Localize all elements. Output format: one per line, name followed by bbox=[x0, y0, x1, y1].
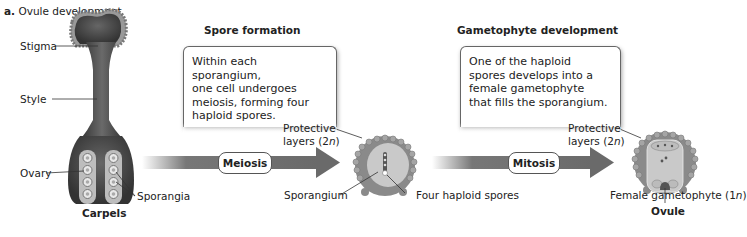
label-part: n bbox=[736, 189, 743, 201]
callout-line: Within each sporangium, bbox=[192, 55, 328, 82]
label-line: Protective bbox=[568, 122, 625, 135]
process-meiosis: Meiosis bbox=[218, 152, 272, 174]
callout-spore-formation: Within each sporangium, one cell undergo… bbox=[183, 46, 337, 127]
callout-line: female gametophyte bbox=[469, 82, 612, 96]
label-part: layers (2 bbox=[283, 135, 329, 147]
label-part: ) bbox=[743, 189, 747, 201]
heading-spore-formation: Spore formation bbox=[204, 24, 301, 36]
label-part: ) bbox=[336, 135, 340, 147]
process-mitosis: Mitosis bbox=[508, 152, 560, 174]
label-part: layers (2 bbox=[568, 135, 614, 147]
label-stigma: Stigma bbox=[20, 40, 57, 53]
callout-line: one cell undergoes bbox=[192, 82, 328, 96]
label-part: Female gametophyte (1 bbox=[610, 189, 736, 201]
label-female-gametophyte: Female gametophyte (1n) bbox=[610, 189, 747, 202]
callout-line: haploid spores. bbox=[192, 109, 328, 123]
label-four-haploid-spores: Four haploid spores bbox=[416, 189, 519, 202]
callout-line: spores develops into a bbox=[469, 69, 612, 83]
heading-gametophyte-development: Gametophyte development bbox=[457, 24, 618, 36]
label-line: layers (2n) bbox=[568, 135, 625, 148]
label-style: Style bbox=[20, 93, 46, 106]
label-sporangia: Sporangia bbox=[137, 190, 190, 203]
label-sporangium: Sporangium bbox=[284, 189, 348, 202]
label-part: n bbox=[329, 135, 336, 147]
label-protective-layers-2: Protective layers (2n) bbox=[568, 122, 625, 147]
sporangium-illustration bbox=[330, 127, 417, 196]
caption-carpels: Carpels bbox=[82, 207, 126, 220]
callout-line: meiosis, forming four bbox=[192, 96, 328, 110]
carpel-illustration bbox=[46, 10, 135, 204]
callout-line: that fills the sporangium. bbox=[469, 96, 612, 110]
callout-gametophyte-development: One of the haploid spores develops into … bbox=[460, 46, 621, 127]
label-line: Protective bbox=[283, 122, 340, 135]
callout-line: One of the haploid bbox=[469, 55, 612, 69]
label-part: n bbox=[614, 135, 621, 147]
label-protective-layers-1: Protective layers (2n) bbox=[283, 122, 340, 147]
label-ovary: Ovary bbox=[20, 167, 51, 180]
label-part: ) bbox=[621, 135, 625, 147]
label-line: layers (2n) bbox=[283, 135, 340, 148]
caption-ovule: Ovule bbox=[651, 205, 685, 218]
